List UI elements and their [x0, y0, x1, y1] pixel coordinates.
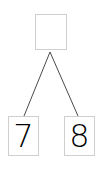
whole-box[interactable]: [35, 14, 67, 50]
part-box-right[interactable]: 8: [64, 116, 95, 156]
part-value-right: 8: [69, 120, 89, 152]
connector-left: [24, 52, 50, 116]
part-value-left: 7: [13, 120, 33, 152]
connector-right: [50, 52, 78, 116]
part-box-left[interactable]: 7: [8, 116, 39, 156]
